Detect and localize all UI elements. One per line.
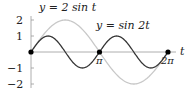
intersection-point [97, 49, 102, 54]
series-label-2sint: y = 2 sin t [39, 2, 96, 13]
chart-canvas [0, 0, 189, 96]
t-axis-label: t [180, 46, 184, 57]
y-tick-minus2: −2 [7, 79, 23, 90]
y-tick-minus1: −1 [7, 63, 23, 74]
y-tick-1: 1 [16, 31, 23, 42]
intersection-point [28, 49, 33, 54]
tick-pi: π [96, 56, 103, 66]
series-label-sin2t: y = sin 2t [96, 20, 150, 31]
y-tick-2: 2 [16, 15, 23, 26]
intersection-point [165, 49, 170, 54]
tick-2pi: 2π [161, 56, 174, 66]
